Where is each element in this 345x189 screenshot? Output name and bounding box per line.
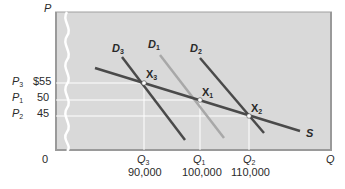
y-axis-label: P — [44, 2, 51, 14]
x-tick-q2-value: 110,000 — [231, 166, 270, 178]
y-tick-p1: P1 — [12, 91, 23, 104]
curve-label-s: S — [306, 127, 313, 139]
origin-label: 0 — [42, 153, 48, 165]
x-tick-q1-value: 100,000 — [182, 166, 222, 178]
y-tick-p3: P3 — [12, 75, 23, 88]
point-label-x1: X1 — [202, 86, 213, 99]
y-tick-p3-value: $55 — [33, 75, 51, 87]
y-tick-p1-value: 50 — [37, 91, 49, 103]
point-label-x2: X2 — [251, 102, 262, 115]
curve-label-d3: D3 — [112, 42, 124, 55]
x-tick-q1: Q1 — [193, 153, 205, 166]
y-tick-p2-value: 45 — [37, 107, 49, 119]
x-tick-q2: Q2 — [243, 153, 255, 166]
plot-area — [55, 12, 332, 151]
x-axis-label: Q — [326, 153, 335, 165]
chart-canvas — [0, 0, 345, 189]
point-label-x3: X3 — [146, 68, 157, 81]
curve-label-d2: D2 — [190, 42, 202, 55]
x-tick-q3-value: 90,000 — [128, 166, 162, 178]
curve-label-d1: D1 — [148, 38, 160, 51]
equilibrium-point-x3 — [142, 81, 147, 86]
y-tick-p2: P2 — [12, 107, 23, 120]
x-tick-q3: Q3 — [137, 153, 149, 166]
